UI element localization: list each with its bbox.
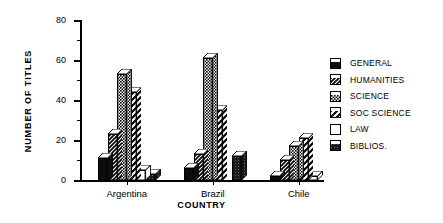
bar-shape [270,171,285,180]
x-axis-label: COUNTRY [80,200,323,210]
legend-item-law[interactable]: LAW [330,121,442,138]
legend-label: HUMANITIES [350,75,404,85]
x-category-label: Brazil [201,188,225,199]
legend-swatch-icon [330,140,341,151]
y-tick-major: 60 [74,60,80,62]
x-category-label: Chile [288,188,310,199]
legend-item-science[interactable]: SCIENCE [330,88,442,105]
legend-label: SOC SCIENCE [350,108,411,118]
legend-label: LAW [350,124,369,134]
bar-argentina-general [98,158,108,180]
y-tick-major: 80 [74,20,80,22]
y-tick-label: 80 [56,15,66,25]
y-tick-major: 40 [74,100,80,102]
x-tick [299,180,300,185]
y-tick-minor [77,80,80,81]
legend-label: GENERAL [350,58,392,68]
bar-brazil-general [184,168,194,180]
bar-chart: NUMBER OF TITLES 020406080 ArgentinaBraz… [0,0,443,223]
bar-shape [232,151,247,180]
legend-item-soc-science[interactable]: SOC SCIENCE [330,105,442,122]
legend-item-humanities[interactable]: HUMANITIES [330,72,442,89]
y-tick-label: 0 [61,175,66,185]
y-tick-label: 20 [56,135,66,145]
bar-shape [184,163,199,180]
x-tick [213,180,214,185]
legend-swatch-icon [330,124,341,135]
y-tick-label: 60 [56,55,66,65]
legend-swatch-icon [330,58,341,69]
y-tick-minor [77,40,80,41]
y-axis-label: NUMBER OF TITLES [23,26,33,176]
legend-label: BIBLIOS. [350,141,387,151]
bar-shape [98,153,113,180]
legend: GENERALHUMANITIESSCIENCESOC SCIENCELAWBI… [330,55,442,154]
y-tick-major: 0 [74,180,80,182]
x-tick [127,180,128,185]
legend-swatch-icon [330,91,341,102]
legend-swatch-icon [330,107,341,118]
y-tick-minor [77,160,80,161]
plot-area: 020406080 ArgentinaBrazilChile [80,20,323,181]
x-category-label: Argentina [106,188,147,199]
y-axis-line [80,20,82,182]
legend-item-biblios[interactable]: BIBLIOS. [330,138,442,155]
y-tick-label: 40 [56,95,66,105]
y-tick-major: 20 [74,140,80,142]
y-tick-minor [77,120,80,121]
legend-label: SCIENCE [350,91,389,101]
x-axis-line [80,180,324,182]
bar-chile-general [270,176,280,180]
legend-swatch-icon [330,74,341,85]
legend-item-general[interactable]: GENERAL [330,55,442,72]
bar-brazil-biblios [232,156,242,180]
